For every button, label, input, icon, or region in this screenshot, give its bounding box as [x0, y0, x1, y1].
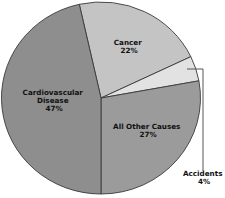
label-accidents: Accidents 4%	[183, 169, 225, 186]
pie-slices	[1, 2, 200, 194]
pie-chart: Cancer 22% Cardiovascular Disease 47% Al…	[0, 0, 225, 198]
